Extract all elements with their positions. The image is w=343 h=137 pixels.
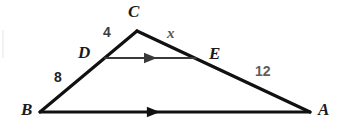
segment-CA [137,31,310,112]
measure-label-ce: x [167,26,175,41]
measure-label-cd: 4 [103,25,111,39]
parallel-arrow-markers [144,53,160,117]
vertex-label-D: D [78,44,90,61]
measure-label-ea: 12 [255,64,271,78]
vertex-label-E: E [209,45,220,62]
parallel-arrow-DE [144,53,157,63]
geometry-canvas [0,0,343,137]
vertex-label-C: C [128,3,139,20]
vertex-label-A: A [318,101,329,118]
vertex-label-B: B [21,101,32,118]
parallel-arrow-BA [147,107,160,117]
measure-label-bd: 8 [54,70,62,84]
geometry-figure: C D E B A 4 x 8 12 [0,0,343,137]
